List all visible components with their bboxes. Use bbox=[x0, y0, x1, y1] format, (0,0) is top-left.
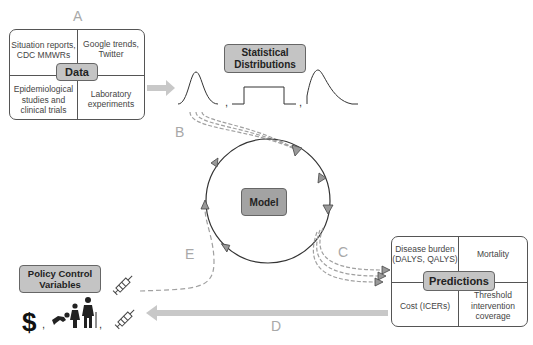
arrow-d-predictions-to-policy bbox=[146, 305, 388, 321]
dashed-arrows-c bbox=[313, 228, 382, 282]
arrow-data-to-distributions bbox=[147, 80, 175, 96]
syringe-icon bbox=[115, 308, 136, 329]
people-icon bbox=[52, 297, 96, 328]
normal-distribution-curve bbox=[178, 72, 218, 104]
skewed-distribution-curve bbox=[307, 70, 358, 104]
uniform-distribution-curve bbox=[232, 87, 296, 104]
diagram-graphics bbox=[0, 0, 533, 345]
dashed-arrow-e bbox=[140, 210, 214, 291]
syringe-icon bbox=[113, 274, 134, 295]
